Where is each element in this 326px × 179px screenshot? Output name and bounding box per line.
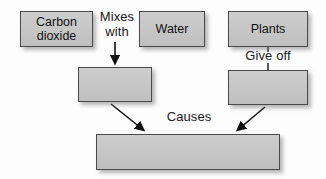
node-plants-label: Plants <box>249 22 288 36</box>
edge-label-mixes-with: Mixes with <box>96 10 138 39</box>
flowchart-diagram: Carbon dioxide Water Plants Mixes with G… <box>0 0 326 179</box>
node-water[interactable]: Water <box>139 11 205 47</box>
edge-label-causes: Causes <box>160 110 218 125</box>
node-blank-bottom[interactable] <box>96 134 280 170</box>
node-plants[interactable]: Plants <box>228 11 308 47</box>
node-water-label: Water <box>154 22 191 36</box>
connector-blank-left-to-bottom <box>111 104 141 128</box>
edge-label-give-off: Give off <box>230 49 306 64</box>
node-carbon-dioxide-label: Carbon dioxide <box>34 15 79 43</box>
connector-blank-right-to-bottom <box>240 107 265 128</box>
node-blank-left[interactable] <box>78 67 152 102</box>
node-carbon-dioxide[interactable]: Carbon dioxide <box>20 11 93 47</box>
node-blank-right[interactable] <box>228 70 308 105</box>
